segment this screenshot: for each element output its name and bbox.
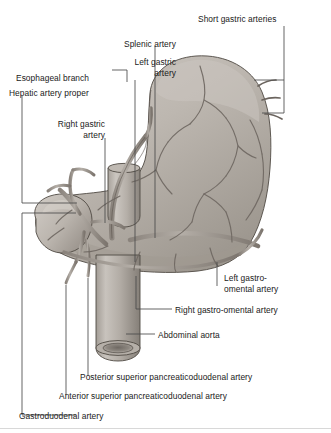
anterior-superior-pancreaticoduodenal-vessel [66,262,76,283]
label-left-gastro-omental-artery-line1: Left gastro- [224,273,267,283]
label-left-gastric-artery-line1: Left gastric [134,57,176,67]
label-anterior-superior-pancreaticoduodenal-artery: Anterior superior pancreaticoduodenal ar… [59,391,227,402]
label-short-gastric-arteries: Short gastric arteries [198,14,276,25]
label-right-gastric-artery-line2: artery [83,130,105,140]
hepatic-branch-left [73,169,94,175]
label-right-gastric-artery: Right gastric artery [44,119,105,140]
bottom-rule [0,428,331,429]
short-gastric-artery-1 [258,80,276,86]
label-left-gastric-artery-line2: artery [154,68,176,78]
label-posterior-superior-pancreaticoduodenal-artery: Posterior superior pancreaticoduodenal a… [80,372,252,383]
label-left-gastric-artery: Left gastric artery [110,57,176,78]
label-splenic-artery: Splenic artery [124,39,176,50]
label-hepatic-artery-proper: Hepatic artery proper [9,88,89,99]
label-right-gastro-omental-artery: Right gastro-omental artery [175,305,278,316]
label-gastroduodenal-artery: Gastroduodenal artery [19,411,103,422]
aorta-lumen [103,343,133,353]
label-left-gastro-omental-artery-line2: omental artery [224,284,278,294]
leader-right-gastro-omental [136,276,172,309]
label-right-gastric-artery-line1: Right gastric [58,119,105,129]
label-left-gastro-omental-artery: Left gastro- omental artery [224,273,278,294]
label-abdominal-aorta: Abdominal aorta [158,330,220,341]
label-esophageal-branch: Esophageal branch [16,73,89,84]
figure-canvas: Short gastric arteries Splenic artery Le… [0,0,331,433]
